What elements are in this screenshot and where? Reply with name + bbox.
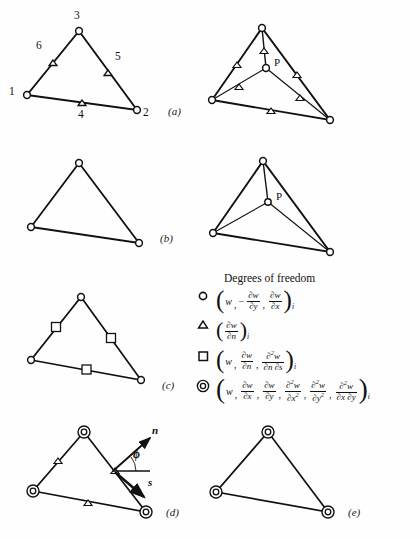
panel-label-c: (c) xyxy=(162,379,174,391)
panel-a-right-mid-median-left xyxy=(235,84,243,90)
frac-num-d2w-3: ∂2w xyxy=(310,379,326,390)
frac-den-dxdy: ∂x ∂y xyxy=(336,393,357,402)
legend-row-double-circle: ( w , ∂w ∂x , ∂w ∂y , ∂2w ∂x2 xyxy=(196,376,420,406)
legend-row-double-circle-expression: ( w , ∂w ∂x , ∂w ∂y , ∂2w ∂x2 xyxy=(216,379,370,404)
panel-d-vertex-3-inner xyxy=(81,429,87,435)
minus-sign: − xyxy=(239,296,246,307)
panel-label-a: (a) xyxy=(168,105,181,117)
panel-e-diagram xyxy=(210,426,334,518)
panel-label-d: (d) xyxy=(166,506,179,518)
panel-b-right-vertex-3 xyxy=(260,158,267,165)
comma-3b: , xyxy=(255,359,261,370)
lparen-2: ( xyxy=(216,321,223,339)
frac-dw-dx: ∂w ∂x xyxy=(267,291,283,312)
panel-a-right-mid-median-top xyxy=(260,48,268,54)
legend-row-square: ( w , ∂w ∂n , ∂2w ∂n ∂s ) i xyxy=(196,346,420,376)
panel-b-left-vertex-1 xyxy=(28,224,35,231)
panel-c-vertex-2 xyxy=(138,377,145,384)
legend-row-circle: ( w , − ∂w ∂y , ∂w ∂x ) i xyxy=(196,286,420,316)
frac-num-d2w-2: ∂2w xyxy=(285,379,301,390)
panel-b-right-centroid-P xyxy=(265,199,271,205)
legend-row-circle-expression: ( w , − ∂w ∂y , ∂w ∂x ) i xyxy=(216,291,294,312)
legend-row-circle-symbol-slot xyxy=(196,289,216,313)
subscript-i-3: i xyxy=(294,362,296,371)
frac-den-dnds: ∂n ∂s xyxy=(262,363,283,372)
comma-4e: , xyxy=(328,389,334,400)
panel-b-right-median-left xyxy=(213,202,268,233)
panel-a-right-diagram xyxy=(209,25,334,124)
frac-dw-dx-2: ∂w ∂x xyxy=(239,381,255,402)
normal-vector-arrow xyxy=(113,438,150,471)
panel-b-left-vertex-3 xyxy=(76,160,83,167)
tangent-vector-label: s xyxy=(148,476,152,488)
frac-d2w-dxdy: ∂2w ∂x ∂y xyxy=(334,380,359,403)
comma-1b: , xyxy=(262,299,268,310)
frac-num-d2w-1: ∂2w xyxy=(265,350,281,361)
panel-c-vertex-3 xyxy=(78,294,85,301)
frac-den-dx-1: ∂x xyxy=(270,302,280,311)
panel-b-left-vertex-2 xyxy=(136,240,143,247)
term-w-1: w xyxy=(224,296,233,307)
frac-num-dw-5: ∂w xyxy=(241,381,253,390)
panel-a-node-1 xyxy=(24,92,31,99)
panel-c-midside-left xyxy=(52,323,61,332)
panel-b-right-vertex-2 xyxy=(327,249,334,256)
rparen-1: ) xyxy=(284,290,292,310)
node-number-1: 1 xyxy=(9,85,15,97)
frac-den-dx2: ∂x2 xyxy=(286,392,300,403)
point-label-P-top: P xyxy=(274,56,280,68)
panel-a-right-vertex-3 xyxy=(259,25,266,32)
panel-d-triangle xyxy=(33,432,146,512)
panel-a-right-vertex-2 xyxy=(327,117,334,124)
panel-a-right-vertex-1 xyxy=(209,97,216,104)
legend-row-triangle: ( ∂w ∂n ) i xyxy=(196,316,420,346)
frac-dw-dy-2: ∂w ∂y xyxy=(261,381,277,402)
panel-c-midside-bottom xyxy=(82,365,91,374)
phi-angle-label: ϕ xyxy=(133,447,140,462)
panel-a-node-5 xyxy=(104,70,112,76)
frac-num-dw-2: ∂w xyxy=(269,291,281,300)
tangent-vector-arrow xyxy=(115,472,144,497)
frac-den-dx-2: ∂x xyxy=(242,392,252,401)
panel-e-vertex-2-inner xyxy=(325,509,331,515)
subscript-i-4: i xyxy=(368,392,370,401)
panel-c-vertex-1 xyxy=(28,357,35,364)
subscript-i-2: i xyxy=(247,332,249,341)
frac-d2w-dnds: ∂2w ∂n ∂s xyxy=(260,350,285,373)
panel-a-triangle xyxy=(27,31,137,110)
figure-page: 1 2 3 4 5 6 P P n s ϕ (a) (b) (c) (d) (e… xyxy=(0,0,420,541)
panel-e-triangle xyxy=(216,432,328,512)
frac-num-d2w-4: ∂2w xyxy=(338,380,354,391)
point-label-P-middle: P xyxy=(276,190,282,202)
frac-den-dy-2: ∂y xyxy=(264,392,274,401)
node-number-4: 4 xyxy=(78,108,84,120)
panel-e-vertex-3-inner xyxy=(265,429,271,435)
panel-c-midside-right xyxy=(107,334,116,343)
lparen-1: ( xyxy=(216,290,224,310)
panel-e-vertex-1-inner xyxy=(213,489,219,495)
panel-b-right-diagram xyxy=(210,158,334,256)
frac-dw-dy: ∂w ∂y xyxy=(245,291,261,312)
legend-row-triangle-symbol-slot xyxy=(196,319,216,343)
panel-b-left-diagram xyxy=(28,160,143,247)
legend-row-square-symbol-slot xyxy=(196,349,216,373)
frac-num-dw-6: ∂w xyxy=(263,381,275,390)
frac-d2w-dy2: ∂2w ∂y2 xyxy=(308,379,328,404)
node-number-5: 5 xyxy=(115,50,121,62)
frac-dw-dn-1: ∂w ∂n xyxy=(223,321,239,342)
panel-c-diagram xyxy=(28,294,145,384)
panel-a-right-centroid-P xyxy=(263,65,270,72)
panel-d-diagram xyxy=(27,426,152,518)
frac-dw-dn-2: ∂w ∂n xyxy=(239,351,255,372)
lparen-4: ( xyxy=(216,379,225,401)
comma-4b: , xyxy=(256,389,262,400)
frac-num-dw-4: ∂w xyxy=(241,351,253,360)
subscript-i-1: i xyxy=(292,302,294,311)
normal-vector-label: n xyxy=(152,424,158,436)
panel-d-vertex-2-inner xyxy=(143,509,149,515)
comma-4a: , xyxy=(234,389,240,400)
frac-num-dw-3: ∂w xyxy=(225,321,237,330)
legend-row-double-circle-symbol-slot xyxy=(196,379,216,403)
comma-4d: , xyxy=(303,389,309,400)
legend-row-square-expression: ( w , ∂w ∂n , ∂2w ∂n ∂s ) i xyxy=(216,350,296,373)
